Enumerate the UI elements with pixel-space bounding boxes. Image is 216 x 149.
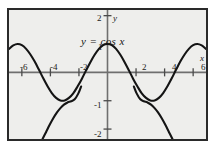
x-tick-label-2: 2	[142, 63, 147, 72]
x-tick-label--4: -4	[50, 63, 58, 72]
plot-canvas	[9, 10, 206, 139]
plot-area: -6 -4 -2 2 4 6 2 1 -1 -2 y x y = cos x	[9, 10, 206, 139]
y-axis-name: y	[113, 14, 117, 23]
y-tick-label--1: -1	[94, 101, 102, 110]
y-tick-label--2: -2	[94, 130, 102, 139]
x-tick-label-4: 4	[172, 63, 177, 72]
x-tick-label-6: 6	[201, 63, 206, 72]
x-axis-name: x	[200, 54, 204, 63]
y-tick-label-2: 2	[97, 14, 102, 23]
screenshot-root: -6 -4 -2 2 4 6 2 1 -1 -2 y x y = cos x	[0, 0, 216, 149]
figure-frame: -6 -4 -2 2 4 6 2 1 -1 -2 y x y = cos x	[7, 8, 208, 141]
x-tick-label--2: -2	[80, 63, 88, 72]
x-tick-label--6: -6	[20, 63, 28, 72]
curve-equation-label: y = cos x	[81, 36, 125, 47]
curve-secondary-curve-mirror	[134, 87, 173, 139]
curve-secondary-curve	[43, 87, 82, 139]
